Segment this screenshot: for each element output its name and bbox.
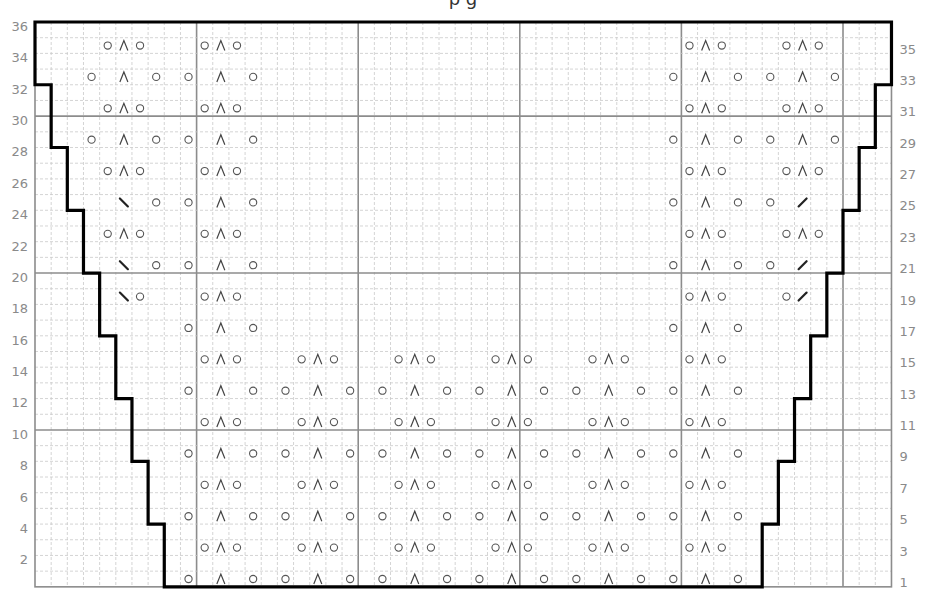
row-number-label: 4 (20, 521, 28, 536)
double-decrease-icon (702, 543, 710, 553)
yarn-over-icon (136, 230, 143, 237)
row-number-label: 17 (899, 324, 916, 339)
yarn-over-icon (734, 513, 741, 520)
yarn-over-icon (185, 575, 192, 582)
row-number-label: 22 (11, 239, 28, 254)
yarn-over-icon (767, 262, 774, 269)
yarn-over-icon (201, 167, 208, 174)
row-number-label: 2 (20, 552, 28, 567)
row-number-label: 32 (11, 82, 28, 97)
row-number-label: 20 (11, 270, 28, 285)
yarn-over-icon (298, 418, 305, 425)
row-number-label: 29 (899, 136, 916, 151)
yarn-over-icon (298, 481, 305, 488)
yarn-over-icon (621, 544, 628, 551)
yarn-over-icon (686, 418, 693, 425)
double-decrease-icon (702, 511, 710, 521)
double-decrease-icon (314, 417, 322, 427)
yarn-over-icon (153, 73, 160, 80)
yarn-over-icon (734, 324, 741, 331)
row-number-label: 14 (11, 364, 28, 379)
yarn-over-icon (718, 42, 725, 49)
yarn-over-icon (637, 387, 644, 394)
yarn-over-icon (718, 418, 725, 425)
double-decrease-icon (799, 72, 807, 82)
left-decrease-icon (120, 261, 128, 269)
yarn-over-icon (233, 418, 240, 425)
double-decrease-icon (702, 41, 710, 51)
row-number-label: 25 (899, 198, 916, 213)
double-decrease-icon (314, 354, 322, 364)
right-decrease-icon (799, 261, 807, 269)
double-decrease-icon (702, 448, 710, 458)
yarn-over-icon (734, 136, 741, 143)
yarn-over-icon (136, 293, 143, 300)
yarn-over-icon (153, 199, 160, 206)
yarn-over-icon (476, 450, 483, 457)
yarn-over-icon (734, 199, 741, 206)
yarn-over-icon (815, 42, 822, 49)
yarn-over-icon (815, 105, 822, 112)
row-number-label: 9 (899, 449, 907, 464)
yarn-over-icon (670, 450, 677, 457)
yarn-over-icon (250, 575, 257, 582)
yarn-over-icon (718, 356, 725, 363)
yarn-over-icon (201, 356, 208, 363)
double-decrease-icon (605, 511, 613, 521)
double-decrease-icon (605, 417, 613, 427)
yarn-over-icon (250, 513, 257, 520)
double-decrease-icon (217, 197, 225, 207)
double-decrease-icon (702, 386, 710, 396)
row-number-label: 19 (899, 293, 916, 308)
yarn-over-icon (282, 513, 289, 520)
yarn-over-icon (670, 575, 677, 582)
yarn-over-icon (185, 136, 192, 143)
double-decrease-icon (508, 480, 516, 490)
yarn-over-icon (815, 167, 822, 174)
yarn-over-icon (427, 356, 434, 363)
yarn-over-icon (476, 513, 483, 520)
yarn-over-icon (540, 513, 547, 520)
yarn-over-icon (379, 513, 386, 520)
double-decrease-icon (702, 229, 710, 239)
yarn-over-icon (104, 42, 111, 49)
double-decrease-icon (605, 354, 613, 364)
yarn-over-icon (783, 293, 790, 300)
double-decrease-icon (120, 72, 128, 82)
double-decrease-icon (217, 448, 225, 458)
yarn-over-icon (734, 450, 741, 457)
yarn-over-icon (201, 42, 208, 49)
double-decrease-icon (702, 135, 710, 145)
row-number-label: 31 (899, 104, 916, 119)
double-decrease-icon (217, 417, 225, 427)
yarn-over-icon (185, 450, 192, 457)
yarn-over-icon (250, 262, 257, 269)
double-decrease-icon (799, 135, 807, 145)
yarn-over-icon (670, 513, 677, 520)
double-decrease-icon (799, 103, 807, 113)
row-number-label: 8 (20, 458, 28, 473)
yarn-over-icon (347, 575, 354, 582)
yarn-over-icon (573, 450, 580, 457)
yarn-over-icon (233, 293, 240, 300)
yarn-over-icon (524, 418, 531, 425)
yarn-over-icon (153, 136, 160, 143)
row-number-label: 27 (899, 167, 916, 182)
yarn-over-icon (395, 418, 402, 425)
yarn-over-icon (637, 513, 644, 520)
yarn-over-icon (815, 230, 822, 237)
yarn-over-icon (185, 513, 192, 520)
yarn-over-icon (379, 387, 386, 394)
right-decrease-icon (799, 198, 807, 206)
yarn-over-icon (104, 105, 111, 112)
yarn-over-icon (492, 481, 499, 488)
yarn-over-icon (686, 42, 693, 49)
double-decrease-icon (799, 166, 807, 176)
double-decrease-icon (605, 543, 613, 553)
yarn-over-icon (540, 450, 547, 457)
yarn-over-icon (783, 167, 790, 174)
row-number-label: 18 (11, 301, 28, 316)
yarn-over-icon (185, 73, 192, 80)
double-decrease-icon (217, 135, 225, 145)
double-decrease-icon (508, 574, 516, 584)
